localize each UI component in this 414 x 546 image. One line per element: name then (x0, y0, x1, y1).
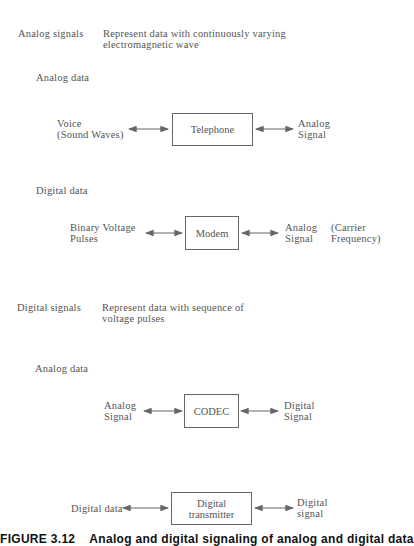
section-title-digital-signals: Digital signals (17, 302, 81, 313)
codec-box: CODEC (184, 394, 239, 428)
figure-caption: FIGURE 3.12Analog and digital signaling … (0, 532, 414, 546)
section-description-line: Represent data with continuously varying (103, 28, 286, 39)
section-description-line: electromagnetic wave (103, 39, 199, 50)
input-label-line: Pulses (70, 233, 98, 244)
input-label-line: Analog (104, 400, 136, 411)
section-title-analog-signals: Analog signals (18, 28, 84, 39)
input-label-line: Signal (104, 411, 132, 422)
figure-number: FIGURE 3.12 (0, 532, 75, 546)
carrier-note-line: (Carrier (331, 222, 366, 233)
box-label-line: transmitter (189, 509, 235, 520)
input-label-line: Binary Voltage (70, 222, 136, 233)
digital-transmitter-box: Digital transmitter (171, 492, 252, 525)
telephone-box: Telephone (172, 113, 253, 146)
output-label-line: Signal (284, 411, 312, 422)
modem-box: Modem (185, 216, 239, 250)
subsection-label-digital-data: Digital data (36, 185, 88, 196)
output-label-line: Signal (298, 129, 326, 140)
box-label-line: Digital (197, 498, 226, 509)
subsection-label-analog-data: Analog data (35, 363, 88, 374)
section-description-line: voltage pulses (102, 313, 165, 324)
input-label-line: (Sound Waves) (57, 129, 124, 140)
output-label-line: Signal (285, 233, 313, 244)
output-label-line: Analog (298, 118, 330, 129)
output-label-line: signal (297, 508, 323, 519)
output-label-line: Digital (297, 497, 328, 508)
section-description-line: Represent data with sequence of (102, 302, 244, 313)
carrier-note-line: Frequency) (331, 233, 381, 244)
input-label-line: Voice (57, 118, 82, 129)
figure-caption-text: Analog and digital signaling of analog a… (89, 532, 414, 546)
output-label-line: Digital (284, 400, 315, 411)
subsection-label-analog-data: Analog data (36, 72, 89, 83)
output-label-line: Analog (285, 222, 317, 233)
input-label-line: Digital data (71, 503, 123, 514)
